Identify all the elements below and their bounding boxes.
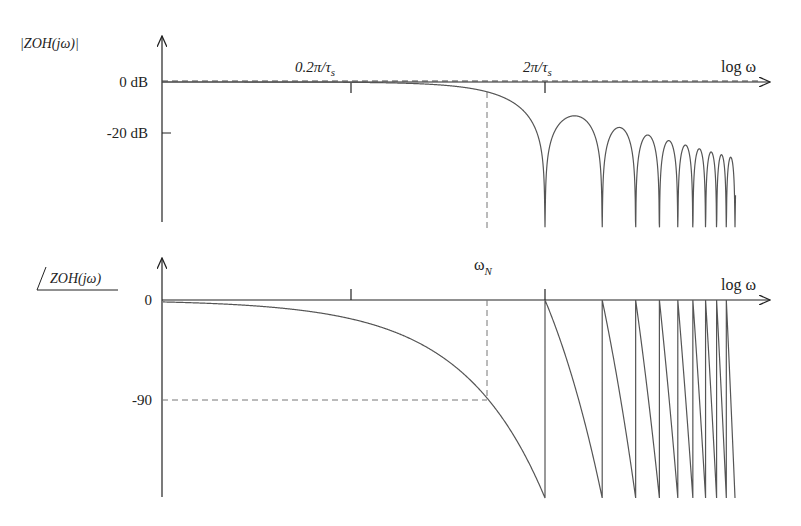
zoh-bode-diagram: |ZOH(jω)| 0 dB -20 dB 0.2π/τs 2π/τs log … (0, 0, 801, 526)
xtick-label-2pi: 2π/τs (523, 59, 552, 78)
phase-ylabel: ZOH(jω) (37, 267, 118, 290)
magnitude-curve (162, 82, 736, 227)
svg-text:ZOH(jω): ZOH(jω) (50, 271, 101, 287)
nyquist-label: ωN (474, 256, 493, 277)
magnitude-plot: |ZOH(jω)| 0 dB -20 dB 0.2π/τs 2π/τs log … (20, 36, 770, 228)
phase-xlabel: log ω (721, 276, 756, 294)
magnitude-ylabel: |ZOH(jω)| (20, 36, 79, 52)
ytick-label-minus20db: -20 dB (107, 125, 148, 141)
ytick-label-0db: 0 dB (119, 74, 148, 90)
phase-curve (163, 300, 735, 498)
xtick-label-0.2pi: 0.2π/τs (295, 59, 335, 78)
ytick-label-0: 0 (145, 292, 153, 308)
magnitude-xlabel: log ω (721, 58, 756, 76)
ytick-label-minus90: -90 (132, 392, 152, 408)
phase-plot: ZOH(jω) 0 -90 ωN log ω (37, 256, 770, 498)
